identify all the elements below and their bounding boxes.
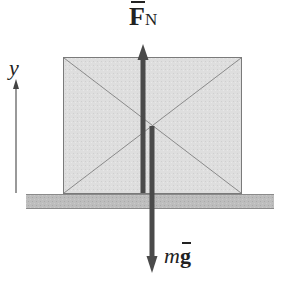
vector-arrow-icon: F [129, 2, 145, 31]
gravity-force-label: mg [164, 243, 191, 269]
y-axis-arrow [13, 79, 19, 193]
y-axis-label: y [9, 55, 19, 81]
normal-force-subscript: N [145, 10, 157, 29]
free-body-diagram [0, 0, 282, 284]
vector-arrow-icon: g [180, 243, 191, 268]
mass-symbol: m [164, 243, 180, 268]
normal-force-label: FN [129, 2, 157, 32]
